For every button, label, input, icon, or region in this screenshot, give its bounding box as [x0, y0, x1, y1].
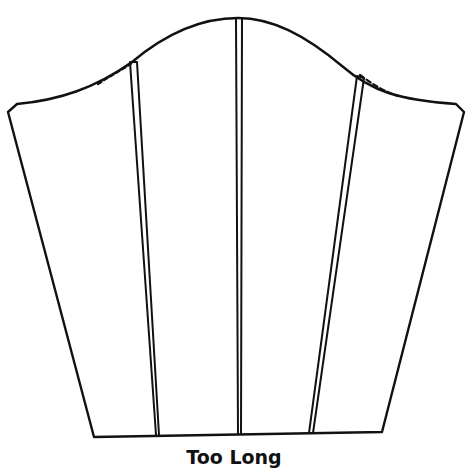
sleeve-pattern-diagram	[0, 0, 468, 470]
center-slash-line	[236, 19, 242, 434]
left-slash-line	[130, 62, 159, 435]
right-cap-dash	[360, 75, 398, 96]
right-slash-line	[309, 76, 364, 433]
figure-caption: Too Long	[0, 446, 468, 468]
